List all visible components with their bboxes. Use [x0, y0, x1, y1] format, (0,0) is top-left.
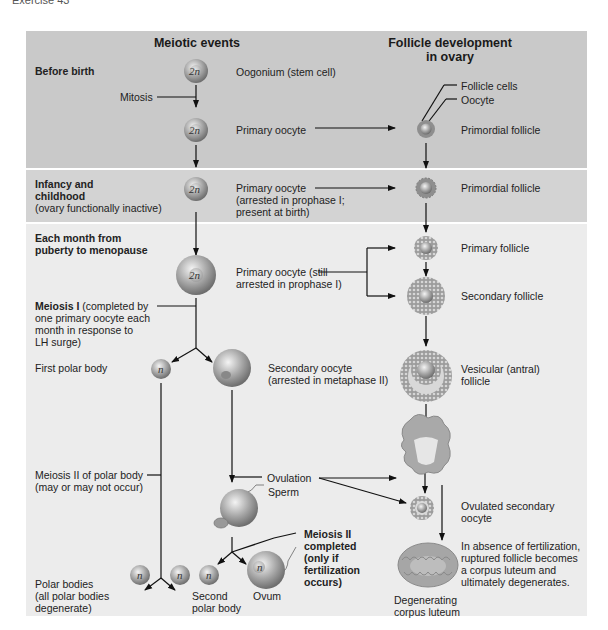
label-absence-1: In absence of fertilization,: [461, 540, 580, 552]
label-primordial-2: Primordial follicle: [461, 182, 540, 194]
label-secondary-follicle: Secondary follicle: [461, 290, 543, 302]
label-primary-still-1: Primary oocyte (still: [236, 266, 328, 278]
svg-text:2n: 2n: [189, 183, 201, 195]
label-degenerating-1: Degenerating: [394, 594, 457, 606]
label-primordial-1: Primordial follicle: [461, 124, 540, 136]
stage-before-birth: Before birth: [35, 65, 95, 77]
label-primary-still-2: arrested in prophase I): [236, 278, 342, 290]
label-second-polar-2: polar body: [192, 602, 241, 614]
label-degenerating-2: corpus luteum: [394, 606, 460, 618]
label-ovulation: Ovulation: [267, 472, 311, 484]
column-header-follicle-1: Follicle development: [380, 36, 520, 50]
svg-text:n: n: [158, 363, 164, 375]
label-primary-arrested-2: (arrested in prophase I;: [236, 194, 345, 206]
label-absence-2: ruptured follicle becomes: [461, 552, 578, 564]
label-meiosis-1-line3: month in response to: [35, 324, 133, 336]
label-polar-bodies-3: degenerate): [35, 602, 92, 614]
label-vesicular-2: follicle: [461, 375, 490, 387]
label-meiosis-2-done-5: occurs): [304, 576, 342, 588]
svg-text:n: n: [206, 569, 212, 581]
label-meiosis-2-polar-2: (may or may not occur): [35, 481, 143, 493]
label-follicle-cells: Follicle cells: [461, 80, 518, 92]
label-ovum: Ovum: [253, 590, 281, 602]
stage-monthly-1: Each month from: [35, 232, 121, 244]
label-meiosis-2-polar-1: Meiosis II of polar body: [35, 469, 143, 481]
label-meiosis-2-done-1: Meiosis II: [304, 528, 351, 540]
label-meiosis-1-line4: LH surge): [35, 336, 81, 348]
label-meiosis-1: Meiosis I (completed by: [35, 300, 148, 312]
label-primary-oocyte: Primary oocyte: [236, 124, 306, 136]
svg-text:2n: 2n: [189, 65, 201, 77]
svg-text:2n: 2n: [189, 124, 201, 136]
svg-text:2n: 2n: [189, 269, 201, 281]
label-second-polar-1: Second: [192, 590, 228, 602]
label-secondary-oocyte-2: (arrested in metaphase II): [268, 374, 388, 386]
label-mitosis: Mitosis: [120, 91, 153, 103]
column-header-follicle-2: in ovary: [380, 50, 520, 64]
label-meiosis-2-done-2: completed: [304, 540, 357, 552]
label-meiosis-1-line2: one primary oocyte each: [35, 312, 150, 324]
label-vesicular-1: Vesicular (antral): [461, 363, 540, 375]
label-polar-bodies-1: Polar bodies: [35, 578, 93, 590]
label-ovulated-1: Ovulated secondary: [461, 500, 554, 512]
svg-text:n: n: [257, 561, 263, 573]
label-primary-arrested-3: present at birth): [236, 206, 310, 218]
label-absence-4: ultimately degenerates.: [461, 576, 570, 588]
stage-infancy-2: childhood: [35, 190, 85, 202]
label-first-polar-body: First polar body: [35, 362, 107, 374]
svg-text:n: n: [177, 569, 183, 581]
label-primary-arrested-1: Primary oocyte: [236, 182, 306, 194]
label-meiosis-1-text: (completed by: [79, 300, 148, 312]
label-secondary-oocyte-1: Secondary oocyte: [268, 362, 352, 374]
stage-infancy-note: (ovary functionally inactive): [35, 202, 162, 214]
label-primary-follicle: Primary follicle: [461, 242, 529, 254]
svg-text:n: n: [137, 569, 143, 581]
column-header-meiotic: Meiotic events: [140, 36, 254, 50]
label-oocyte: Oocyte: [461, 94, 494, 106]
label-oogonium: Oogonium (stem cell): [236, 66, 336, 78]
label-meiosis-1-bold: Meiosis I: [35, 300, 79, 312]
label-polar-bodies-2: (all polar bodies: [35, 590, 109, 602]
label-sperm: Sperm: [268, 486, 299, 498]
stage-monthly-2: puberty to menopause: [35, 244, 148, 256]
label-meiosis-2-done-3: (only if: [304, 552, 338, 564]
label-meiosis-2-done-4: fertilization: [304, 564, 360, 576]
label-absence-3: a corpus luteum and: [461, 564, 556, 576]
stage-infancy-1: Infancy and: [35, 178, 93, 190]
label-ovulated-2: oocyte: [461, 512, 492, 524]
